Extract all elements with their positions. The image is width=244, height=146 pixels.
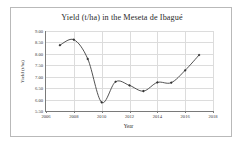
y-axis-title-label: Yield (t/ha) (20, 60, 25, 83)
x-axis-title: Year (45, 123, 212, 129)
y-axis-tick-label: 8.00 (35, 51, 43, 56)
x-axis-tick-label: 2018 (208, 114, 217, 119)
data-series-yield (46, 31, 213, 111)
chart-title: Yield (t/ha) in the Meseta de Ibagué (11, 13, 233, 22)
series-markers (59, 38, 201, 103)
x-axis-tick-label: 2012 (125, 114, 134, 119)
x-axis-tick-label: 2010 (97, 114, 106, 119)
series-line (60, 39, 199, 103)
y-axis-tick-label: 6.50 (35, 86, 43, 91)
y-axis-tick-label: 6.00 (35, 97, 43, 102)
data-point-marker (142, 90, 145, 93)
chart-container: Yield (t/ha) in the Meseta de Ibagué Yie… (10, 7, 232, 137)
data-point-marker (86, 58, 89, 61)
x-axis-tick-label: 2008 (69, 114, 78, 119)
plot-area: 5.506.006.507.007.508.008.509.00 2006200… (45, 31, 213, 112)
x-axis-tick-label: 2016 (181, 114, 190, 119)
gridline-vertical (213, 31, 214, 111)
y-axis-tick-label: 8.50 (35, 40, 43, 45)
x-axis-tick-label: 2006 (41, 114, 50, 119)
data-point-marker (128, 84, 131, 87)
x-axis-tick-label: 2014 (153, 114, 162, 119)
y-axis-tick-label: 7.00 (35, 74, 43, 79)
y-axis-title: Yield (t/ha) (17, 31, 27, 111)
data-point-marker (156, 81, 159, 84)
y-axis-tick-label: 9.00 (35, 29, 43, 34)
y-axis-tick-label: 7.50 (35, 63, 43, 68)
